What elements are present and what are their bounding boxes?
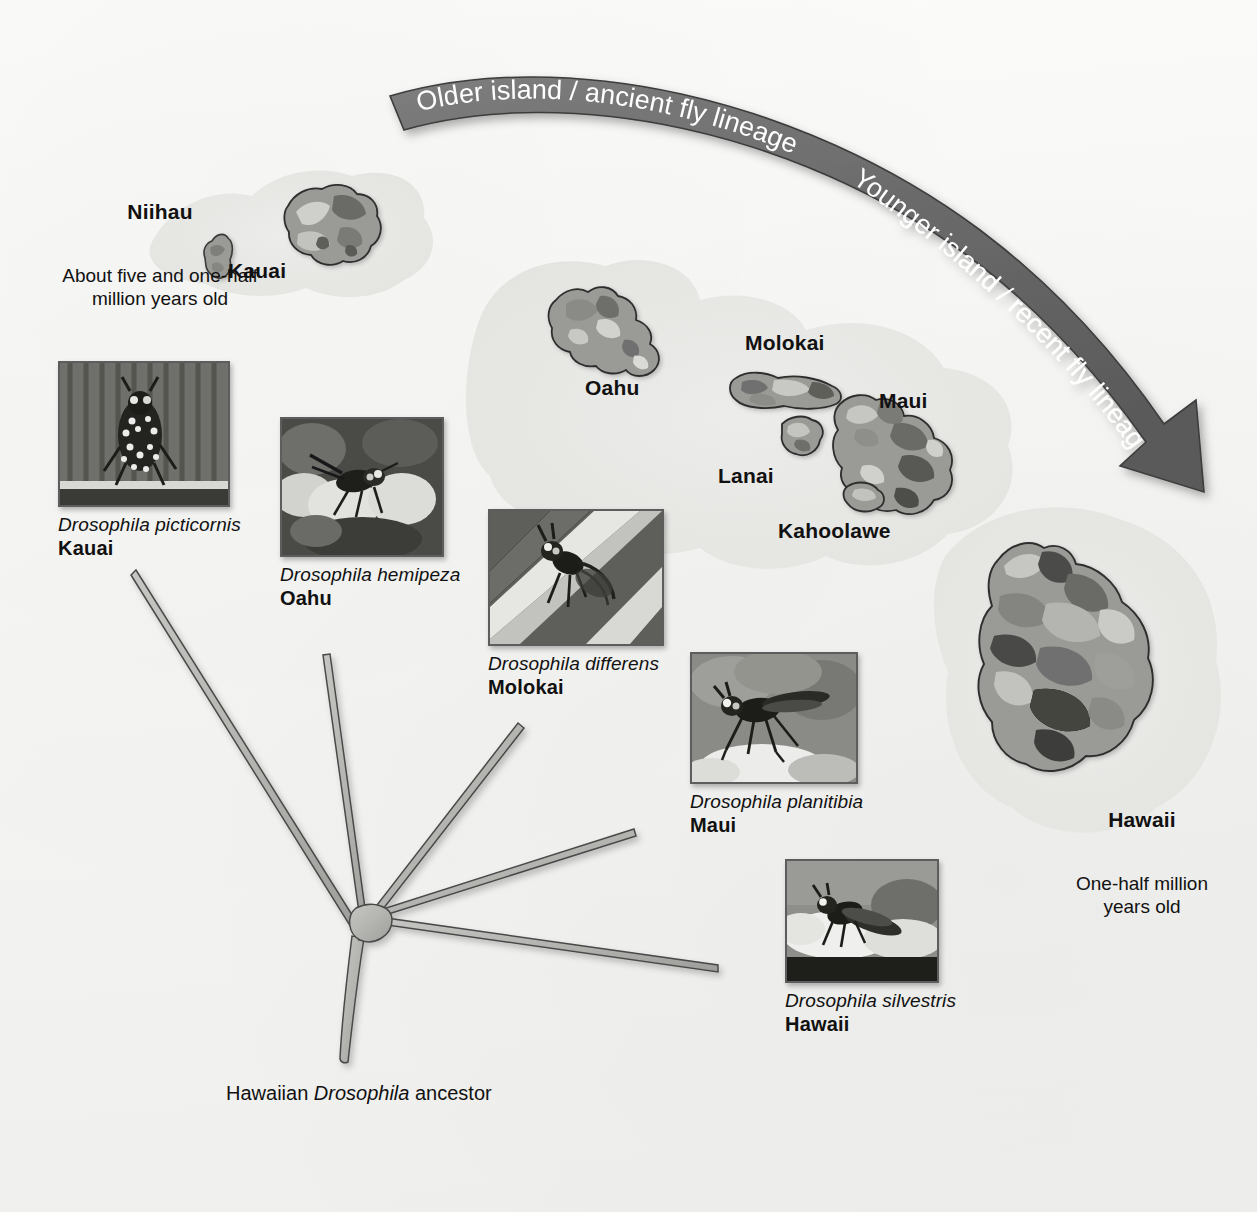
photo-image-silvestris [787,861,937,981]
species-island-hemipeza: Oahu [280,587,460,610]
island-name-niihau: Niihau [40,199,280,225]
photo-picticornis: Courtesy Kenneth Y. Kaneshiro [58,361,230,507]
photo-image-hemipeza [282,419,442,555]
photo-caption-hemipeza: Drosophila hemipeza Oahu [280,564,460,610]
island-label-kauai: Kauai [228,258,286,284]
species-island-planitibia: Maui [690,814,863,837]
species-name-differens: Drosophila differens [488,653,664,675]
photo-image-differens [490,511,662,644]
photo-caption-planitibia: Drosophila planitibia Maui [690,791,863,837]
photo-caption-picticornis: Drosophila picticornis Kauai [58,514,241,560]
species-name-planitibia: Drosophila planitibia [690,791,863,813]
species-island-silvestris: Hawaii [785,1013,956,1036]
branch-root [340,936,364,1063]
species-name-silvestris: Drosophila silvestris [785,990,956,1012]
species-name-picticornis: Drosophila picticornis [58,514,241,536]
ancestor-label-prefix: Hawaiian [226,1082,314,1104]
island-label-hawaii: Hawaii One-half million years old [1032,768,1252,957]
island-label-molokai: Molokai [745,330,825,356]
photo-image-picticornis [60,363,228,505]
branch-maui [380,829,636,916]
photo-hemipeza: Courtesy Kenneth Y. Kaneshiro [280,417,444,557]
island-label-oahu: Oahu [585,375,639,401]
photo-image-planitibia [692,654,856,782]
island-label-maui: Maui [879,388,928,414]
photo-card-planitibia: Courtesy Kenneth Y. Kaneshiro Drosophila… [690,652,863,837]
island-lanai [782,417,823,456]
island-label-niihau: Niihau About five and one-half million y… [40,160,280,349]
island-label-lanai: Lanai [718,463,774,489]
photo-differens: Courtesy Kenneth Y. Kaneshiro [488,509,664,646]
species-island-picticornis: Kauai [58,537,241,560]
photo-caption-silvestris: Drosophila silvestris Hawaii [785,990,956,1036]
ancestor-label-suffix: ancestor [409,1082,491,1104]
tree-node [350,904,392,941]
branch-kauai [131,570,364,940]
photo-card-picticornis: Courtesy Kenneth Y. Kaneshiro Drosophila… [58,361,241,560]
photo-silvestris: Courtesy Kenneth Y. Kaneshiro [785,859,939,983]
branch-hawaii [379,917,718,972]
island-name-hawaii: Hawaii [1032,807,1252,833]
island-label-kahoolawe: Kahoolawe [778,518,891,544]
drosophila-radiation-figure: Older island / ancient fly lineage Young… [0,0,1257,1212]
photo-card-silvestris: Courtesy Kenneth Y. Kaneshiro Drosophila… [785,859,956,1036]
photo-card-differens: Courtesy Kenneth Y. Kaneshiro Drosophila… [488,509,664,699]
species-island-differens: Molokai [488,676,664,699]
ancestor-label-genus: Drosophila [314,1082,410,1104]
island-age-hawaii: One-half million years old [1032,872,1252,918]
species-name-hemipeza: Drosophila hemipeza [280,564,460,586]
photo-caption-differens: Drosophila differens Molokai [488,653,664,699]
ancestor-label: Hawaiian Drosophila ancestor [226,1082,492,1105]
photo-card-hemipeza: Courtesy Kenneth Y. Kaneshiro Drosophila… [280,417,460,610]
photo-planitibia: Courtesy Kenneth Y. Kaneshiro [690,652,858,784]
